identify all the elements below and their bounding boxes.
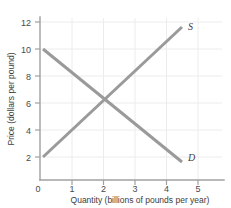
y-axis-ticks bbox=[35, 22, 40, 157]
demand-curve-label: D bbox=[187, 152, 196, 163]
y-axis-title: Price (dollars per pound) bbox=[6, 52, 16, 145]
x-tick-label-0: 0 bbox=[35, 184, 40, 194]
x-tick-label-3: 3 bbox=[132, 184, 137, 194]
curve-labels: S D bbox=[187, 21, 196, 163]
y-tick-label-2: 2 bbox=[26, 153, 31, 163]
x-axis-tick-labels: 0 1 2 3 4 5 bbox=[35, 184, 200, 194]
x-tick-label-5: 5 bbox=[195, 184, 200, 194]
y-tick-label-8: 8 bbox=[26, 72, 31, 82]
x-tick-label-4: 4 bbox=[164, 184, 169, 194]
y-tick-label-12: 12 bbox=[21, 18, 31, 28]
y-axis-tick-labels: 12 10 8 6 4 2 bbox=[21, 18, 31, 163]
x-tick-label-2: 2 bbox=[101, 184, 106, 194]
supply-curve bbox=[43, 27, 182, 157]
demand-curve bbox=[43, 49, 182, 162]
x-tick-label-1: 1 bbox=[69, 184, 74, 194]
data-curves bbox=[43, 27, 182, 162]
y-tick-label-10: 10 bbox=[21, 45, 31, 55]
supply-curve-label: S bbox=[188, 21, 193, 32]
y-tick-label-6: 6 bbox=[26, 99, 31, 109]
chart-canvas: 12 10 8 6 4 2 0 1 2 3 4 5 S D Price (dol… bbox=[0, 0, 231, 208]
x-axis-title: Quantity (billions of pounds per year) bbox=[71, 195, 210, 205]
y-tick-label-4: 4 bbox=[26, 126, 31, 136]
axes bbox=[40, 17, 224, 180]
supply-demand-chart: 12 10 8 6 4 2 0 1 2 3 4 5 S D Price (dol… bbox=[0, 0, 231, 208]
